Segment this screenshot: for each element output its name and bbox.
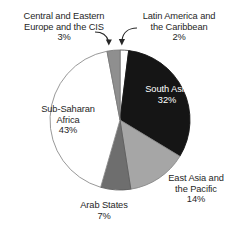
slice-label-arab-states: Arab States 7% (62, 200, 146, 221)
slice-label-line2: the Pacific (175, 184, 217, 194)
slice-label-line1: Central and Eastern (24, 11, 105, 21)
slice-label-line1: Latin America and (143, 11, 216, 21)
slice-label-line2: the Caribbean (150, 22, 207, 32)
slice-label-percent: 32% (130, 95, 204, 106)
slice-label-line1: East Asia and (168, 173, 224, 183)
slice-label-line1: Sub-Saharan (41, 104, 95, 114)
slice-label-latin-america-and-the-caribbean: Latin America and the Caribbean 2% (126, 11, 232, 43)
slice-label-line1: South Asia (145, 84, 188, 94)
slice-label-east-asia-and-the-pacific: East Asia and the Pacific 14% (154, 173, 238, 205)
pie-chart: Central and Eastern Europe and the CIS 3… (0, 0, 240, 232)
slice-label-line2: Africa (56, 115, 79, 125)
slice-label-line2: Europe and the CIS (24, 22, 104, 32)
slice-label-percent: 14% (154, 194, 238, 205)
slice-label-percent: 2% (126, 32, 232, 43)
slice-label-percent: 3% (8, 32, 120, 43)
slice-label-sub-saharan-africa: Sub-Saharan Africa 43% (28, 104, 108, 136)
slice-label-line1: Arab States (80, 200, 127, 210)
slice-label-central-and-eastern-europe-and-the-cis: Central and Eastern Europe and the CIS 3… (8, 11, 120, 43)
slice-label-percent: 7% (62, 211, 146, 222)
slice-label-south-asia: South Asia 32% (130, 84, 204, 105)
slice-label-percent: 43% (28, 125, 108, 136)
